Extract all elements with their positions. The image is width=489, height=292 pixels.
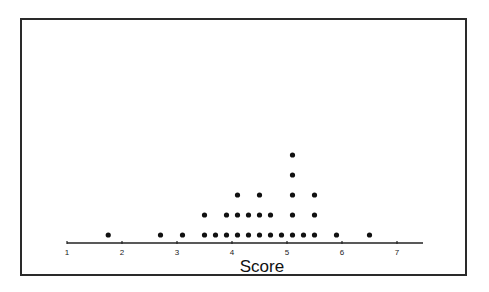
data-dot (312, 232, 317, 237)
x-axis-title: Score (240, 257, 284, 276)
data-dot (158, 232, 163, 237)
data-dot (246, 212, 251, 217)
data-dot (312, 212, 317, 217)
x-tick-label: 3 (175, 248, 180, 257)
data-dot (235, 212, 240, 217)
data-dot (279, 232, 284, 237)
data-dot (180, 232, 185, 237)
data-dot (235, 232, 240, 237)
x-tick-label: 6 (340, 248, 345, 257)
x-tick-label: 5 (285, 248, 290, 257)
data-dot (257, 232, 262, 237)
data-dot (246, 232, 251, 237)
x-tick-label: 1 (65, 248, 70, 257)
data-dot (235, 192, 240, 197)
data-dot (367, 232, 372, 237)
data-dot (268, 232, 273, 237)
data-dot (290, 232, 295, 237)
data-dot (290, 152, 295, 157)
x-tick-label: 2 (120, 248, 125, 257)
data-dot (301, 232, 306, 237)
data-dot (257, 192, 262, 197)
data-dot (202, 212, 207, 217)
data-dot (290, 172, 295, 177)
data-dot (290, 212, 295, 217)
data-dot (224, 212, 229, 217)
x-tick-label: 4 (230, 248, 235, 257)
data-dot (224, 232, 229, 237)
dot-plot: 1234567 Score (0, 0, 489, 292)
data-points (106, 152, 372, 237)
data-dot (202, 232, 207, 237)
data-dot (334, 232, 339, 237)
data-dot (213, 232, 218, 237)
data-dot (268, 212, 273, 217)
data-dot (257, 212, 262, 217)
data-dot (312, 192, 317, 197)
x-tick-label: 7 (395, 248, 400, 257)
data-dot (290, 192, 295, 197)
data-dot (106, 232, 111, 237)
